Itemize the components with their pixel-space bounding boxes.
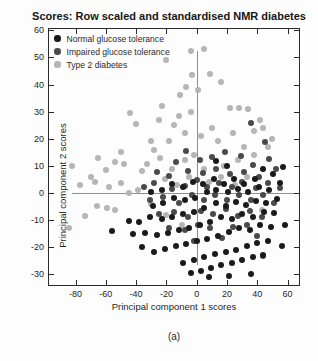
data-point — [159, 103, 165, 109]
data-point — [236, 225, 242, 231]
data-point — [266, 156, 272, 162]
x-tick-mark — [166, 29, 167, 34]
data-point — [154, 169, 160, 175]
legend-item-normal: Normal glucose tolerance — [54, 32, 170, 45]
data-point — [183, 241, 189, 247]
data-point — [226, 229, 232, 235]
y-tick-mark — [49, 193, 54, 194]
y-tick-mark — [49, 112, 54, 113]
data-point — [180, 211, 186, 217]
x-tick-mark — [197, 29, 198, 34]
y-tick-mark — [49, 247, 54, 248]
data-point — [139, 168, 145, 174]
data-point — [103, 167, 109, 173]
data-point — [112, 207, 118, 213]
data-point — [239, 257, 245, 263]
data-point — [226, 273, 232, 279]
data-point — [218, 262, 224, 268]
x-tick-label: -80 — [62, 289, 90, 299]
y-tick-label: 40 — [18, 80, 44, 90]
x-tick-mark — [166, 280, 167, 285]
data-point — [173, 243, 179, 249]
data-point — [204, 189, 210, 195]
data-point — [250, 214, 256, 220]
x-tick-label: 20 — [213, 289, 241, 299]
data-point — [106, 184, 112, 190]
data-point — [259, 214, 265, 220]
x-tick-mark — [257, 29, 258, 34]
data-point — [207, 219, 213, 225]
y-tick-mark — [49, 85, 54, 86]
data-point — [218, 174, 224, 180]
legend-marker-normal-icon — [54, 35, 61, 42]
x-tick-mark — [76, 280, 77, 285]
y-tick-label: 30 — [18, 107, 44, 117]
data-point — [231, 176, 237, 182]
data-point — [270, 171, 276, 177]
data-point — [127, 110, 133, 116]
data-point — [154, 232, 160, 238]
x-tick-mark — [76, 29, 77, 34]
data-point — [212, 251, 218, 257]
data-point — [218, 79, 224, 85]
y-tick-mark — [294, 57, 299, 58]
y-tick-mark — [49, 57, 54, 58]
data-point — [257, 222, 263, 228]
data-point — [248, 271, 254, 277]
data-point — [201, 197, 207, 203]
data-point — [213, 200, 219, 206]
x-tick-mark — [257, 280, 258, 285]
data-point — [182, 197, 188, 203]
data-point — [269, 136, 275, 142]
data-point — [176, 113, 182, 119]
data-point — [241, 169, 247, 175]
data-point — [274, 196, 280, 202]
data-point — [271, 210, 277, 216]
y-tick-mark — [294, 220, 299, 221]
data-point — [236, 105, 242, 111]
data-point — [198, 133, 204, 139]
legend-marker-type2-icon — [54, 61, 61, 68]
data-point — [238, 153, 244, 159]
legend-marker-impaired-icon — [54, 48, 61, 55]
data-point — [280, 164, 286, 170]
data-point — [191, 209, 197, 215]
data-point — [182, 157, 188, 163]
y-tick-label: 60 — [18, 25, 44, 35]
data-point — [189, 72, 195, 78]
data-point — [176, 227, 182, 233]
data-point — [148, 138, 154, 144]
legend-item-impaired: Impaired glucose tolerance — [54, 45, 170, 58]
y-tick-label: 50 — [18, 52, 44, 62]
data-point — [201, 46, 207, 52]
data-point — [166, 173, 172, 179]
data-point — [173, 159, 179, 165]
data-point — [224, 163, 230, 169]
data-point — [260, 252, 266, 258]
y-axis-label: Principal component 2 scores — [57, 116, 68, 256]
x-tick-label: 0 — [183, 289, 211, 299]
data-point — [251, 152, 257, 158]
x-tick-mark — [227, 29, 228, 34]
data-point — [150, 203, 156, 209]
data-point — [229, 260, 235, 266]
data-point — [245, 189, 251, 195]
data-point — [144, 161, 150, 167]
data-point — [245, 106, 251, 112]
data-point — [194, 238, 200, 244]
data-point — [188, 48, 194, 54]
data-point — [207, 71, 213, 77]
x-tick-mark — [288, 280, 289, 285]
data-point — [151, 249, 157, 255]
data-point — [262, 139, 268, 145]
data-point — [260, 125, 266, 131]
x-tick-mark — [106, 280, 107, 285]
x-tick-mark — [288, 29, 289, 34]
y-tick-mark — [294, 247, 299, 248]
y-tick-mark — [49, 274, 54, 275]
data-point — [235, 186, 241, 192]
legend-item-type2: Type 2 diabetes — [54, 58, 170, 71]
data-point — [213, 187, 219, 193]
data-point — [171, 122, 177, 128]
data-point — [233, 247, 239, 253]
